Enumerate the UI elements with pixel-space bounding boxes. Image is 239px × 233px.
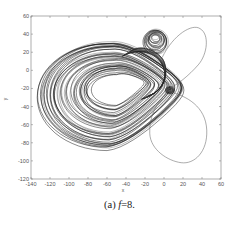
- y-tick-label: -80: [21, 140, 29, 146]
- y-tick-label: 20: [23, 49, 29, 55]
- caption-suffix: =8.: [121, 199, 135, 210]
- x-tick-label: -80: [84, 181, 92, 187]
- x-tick-label: 40: [199, 181, 205, 187]
- y-tick-label: 60: [23, 13, 29, 19]
- y-axis-label: y: [2, 97, 8, 100]
- x-tick-label: 60: [218, 181, 224, 187]
- y-tick-label: -60: [21, 122, 29, 128]
- caption-prefix: (a): [104, 199, 118, 210]
- trajectory-lines: [37, 27, 207, 163]
- x-tick-label: -120: [44, 181, 55, 187]
- y-tick-label: 0: [26, 67, 29, 73]
- y-tick-label: -100: [18, 158, 29, 164]
- x-tick-label: 20: [180, 181, 186, 187]
- x-tick-label: -60: [103, 181, 111, 187]
- y-tick-label: -120: [18, 176, 29, 182]
- axis-ticks: -140-120-100-80-60-40-2002040606040200-2…: [18, 13, 224, 187]
- x-tick-label: 0: [162, 181, 165, 187]
- figure-caption: (a) f=8.: [0, 199, 239, 210]
- x-axis-label: x: [122, 187, 125, 193]
- figure: -140-120-100-80-60-40-2002040606040200-2…: [0, 0, 239, 233]
- y-tick-label: -20: [21, 85, 29, 91]
- y-tick-label: -40: [21, 104, 29, 110]
- y-tick-label: 40: [23, 31, 29, 37]
- x-tick-label: -20: [141, 181, 149, 187]
- axes-box: [31, 16, 221, 179]
- x-tick-label: -100: [63, 181, 74, 187]
